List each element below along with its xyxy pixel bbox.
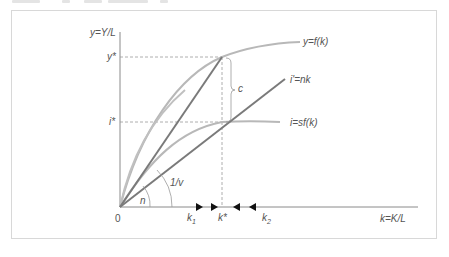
output-curve-label: y=f(k) (302, 36, 328, 47)
angle-n-label: n (140, 195, 146, 206)
steep-curve (120, 90, 185, 207)
arrow-left-icon (249, 203, 256, 211)
arrow-right-icon (196, 203, 203, 211)
arrow-left-icon (233, 203, 240, 211)
k1-label: k1 (187, 212, 196, 225)
k2-label: k2 (262, 212, 271, 225)
k-star-label: k* (218, 212, 228, 223)
solow-diagram: y=Y/L y* i* y=f(k) i'=nk i=sf(k) c n 1/v… (0, 0, 449, 257)
y-axis-label: y=Y/L (89, 27, 116, 38)
consumption-brace (226, 58, 235, 122)
x-axis-label: k=K/L (380, 213, 406, 224)
origin-label: 0 (115, 213, 121, 224)
arrow-right-icon (211, 203, 218, 211)
savings-curve-label: i=sf(k) (290, 117, 318, 128)
i-star-label: i* (109, 116, 116, 127)
consumption-label: c (238, 83, 243, 94)
angle-1v-label: 1/v (170, 177, 184, 188)
y-star-label: y* (106, 51, 117, 62)
nk-line-label: i'=nk (290, 74, 312, 85)
